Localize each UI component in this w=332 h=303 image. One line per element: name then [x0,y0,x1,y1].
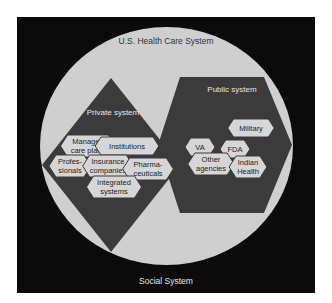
node-label: FDA [228,145,243,154]
node-label: Insurance [92,157,125,166]
node-label: Pharma- [134,160,163,169]
node-label: Indian [238,158,258,167]
node-label: agencies [196,164,226,173]
node-label: systems [100,187,128,196]
node-label: ceuticals [133,169,162,178]
public-node-military: Military [228,119,274,137]
private-system-label: Private system [87,108,140,117]
private-node-institutions: Institutions [95,137,159,155]
node-label: Institutions [109,142,145,151]
node-label: Military [239,124,263,133]
node-label: Integrated [97,178,131,187]
social-system-label: Social System [139,276,193,286]
public-system-label: Public system [207,85,257,94]
diagram-stage: U.S. Health Care System Private system P… [0,0,332,303]
node-label: Other [202,155,221,164]
public-node-indian: IndianHealth [229,156,267,178]
node-label: VA [195,143,204,152]
node-label: companies [90,166,127,175]
private-node-integrated: Integratedsystems [87,176,142,198]
node-label: Profes- [58,157,83,166]
node-label: Health [237,167,259,176]
circle-label: U.S. Health Care System [119,36,214,46]
health-care-diagram: U.S. Health Care System Private system P… [0,0,332,303]
node-label: sionals [58,166,82,175]
public-node-other: Otheragencies [188,153,234,175]
